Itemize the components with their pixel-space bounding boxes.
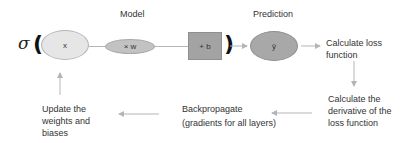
backpropagate-step: Backpropagate (gradients for all layers) <box>182 103 312 129</box>
backpropagate-line2: (gradients for all layers) <box>182 117 312 129</box>
calculate-derivative-step: Calculate the derivative of the loss fun… <box>328 93 406 129</box>
update-weights-step: Update the weights and biases <box>42 103 104 139</box>
calculate-loss-step: Calculate loss function <box>326 37 406 61</box>
backpropagate-line1: Backpropagate <box>182 103 312 115</box>
